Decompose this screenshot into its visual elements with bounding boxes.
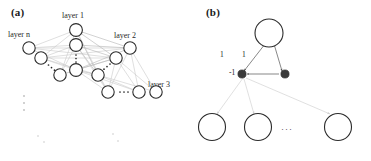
node-input-top: [255, 19, 283, 47]
edge-weight-right: [274, 44, 282, 71]
panel-a: (a) layer 1 layer n layer 2 layer 3: [0, 0, 186, 161]
panel-a-graph: [0, 0, 186, 161]
node-hidden-left: [238, 70, 246, 78]
node-layer-1-1: [70, 24, 83, 37]
node-layer-1-3: [70, 64, 83, 77]
edge-output-2: [244, 79, 254, 114]
layer-n-ellipsis: [48, 64, 56, 71]
edges-top-to-hidden: [244, 44, 282, 71]
more-layers-ellipsis: [23, 95, 25, 111]
layer-2-ellipsis: [103, 63, 111, 70]
layer-3-ellipsis: [119, 91, 129, 93]
node-layer-n-1: [23, 42, 35, 54]
figure-root: (a) layer 1 layer n layer 2 layer 3: [0, 0, 371, 161]
layer-1-ellipsis: [75, 54, 77, 63]
node-layer-3-2: [133, 86, 145, 98]
panel-b-graph: [186, 0, 371, 161]
node-output-1: [199, 114, 226, 141]
panel-b: (b) 1 1 -1 ···: [186, 0, 371, 161]
edges-hidden-to-outputs: [217, 78, 330, 114]
layer-3-nodes: [102, 86, 162, 98]
node-layer-3-1: [102, 86, 114, 98]
edge-weight-left: [244, 44, 265, 71]
node-hidden-right: [281, 70, 289, 78]
layer-1-nodes: [70, 24, 83, 77]
node-layer-1-2: [70, 39, 83, 52]
node-layer-2-1: [124, 42, 136, 54]
node-output-2: [245, 114, 272, 141]
node-layer-n-2: [35, 52, 47, 64]
edges-layer1-to-layer3: [76, 30, 139, 92]
edge-output-3: [246, 78, 330, 114]
node-layer-n-3: [54, 69, 66, 81]
edge-output-1: [217, 78, 243, 114]
node-layer-2-2: [110, 52, 122, 64]
edges-layer1-to-layer2: [76, 30, 130, 75]
node-layer-2-3: [92, 69, 104, 81]
faint-scatter-dots: [37, 133, 118, 142]
node-layer-3-3: [150, 86, 162, 98]
node-output-3: [325, 114, 352, 141]
